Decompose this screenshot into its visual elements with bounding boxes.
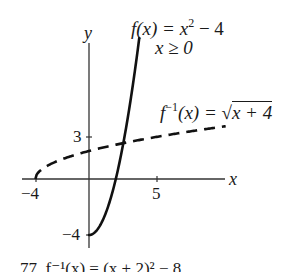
y-axis-label: y <box>84 24 92 42</box>
f-rest: − 4 <box>194 18 224 39</box>
y-tick-label-neg4: −4 <box>62 226 80 243</box>
finv-exponent: −1 <box>165 100 178 114</box>
f-equation-label: f(x) = x2 − 4 <box>131 17 224 38</box>
sqrt-icon: √ <box>221 102 231 123</box>
f-curve <box>89 38 139 235</box>
f-inverse-curve <box>35 126 225 179</box>
caption-partial: 77. f⁻¹(x) = (x + 2)² − 8 ... <box>20 258 198 272</box>
f-inverse-equation-label: f−1(x) = √x + 4 <box>160 101 272 122</box>
f-arg: (x) = x <box>136 18 188 39</box>
x-axis-label: x <box>229 170 237 188</box>
x-tick-label-5: 5 <box>152 185 161 202</box>
finv-arg: (x) = <box>178 102 221 123</box>
y-tick-label-3: 3 <box>73 128 82 145</box>
finv-radicand: x + 4 <box>232 101 272 123</box>
x-tick-label-neg4: −4 <box>21 185 39 202</box>
f-domain-label: x ≥ 0 <box>155 38 193 57</box>
